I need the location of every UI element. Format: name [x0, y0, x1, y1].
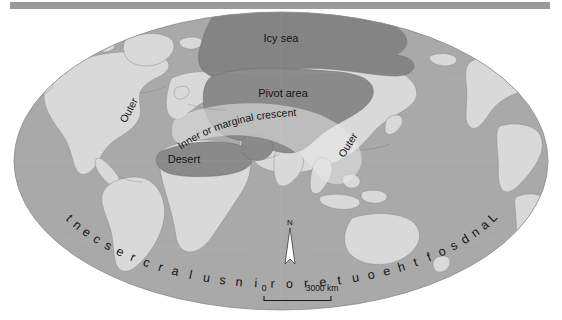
label-pivot-area: Pivot area [258, 87, 308, 99]
figure-root: Icy sea Pivot area Desert Inner or margi… [0, 0, 562, 320]
label-icy-sea: Icy sea [264, 32, 300, 44]
north-arrow-label: N [287, 218, 293, 227]
region-icy-sea [199, 11, 415, 78]
outer-insular-letter: n [235, 275, 243, 290]
outer-insular-letter: o [286, 277, 293, 291]
scale-min-label: 0 [262, 283, 267, 293]
label-desert: Desert [168, 153, 200, 165]
world-map: Icy sea Pivot area Desert Inner or margi… [0, 0, 562, 320]
scale-max-label: 3000 km [306, 283, 339, 293]
outer-insular-letter: r [270, 277, 274, 291]
